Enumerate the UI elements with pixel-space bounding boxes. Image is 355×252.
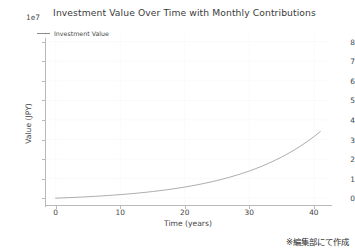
y-tick-mark — [42, 120, 45, 121]
y-tick-mark — [42, 61, 45, 62]
x-tick-mark — [120, 206, 121, 209]
y-tick-mark — [42, 140, 45, 141]
y-axis-exponent-label: 1e7 — [26, 13, 40, 22]
y-axis-spine — [45, 31, 46, 207]
y-tick-mark — [42, 100, 45, 101]
x-tick-mark — [56, 206, 57, 209]
legend-line-swatch — [37, 33, 50, 34]
y-tick-mark — [42, 179, 45, 180]
y-tick-mark — [42, 42, 45, 43]
plot-area — [46, 33, 330, 205]
x-tick-mark — [249, 206, 250, 209]
y-tick-label: 6 — [315, 76, 355, 85]
y-tick-label: 7 — [315, 57, 355, 66]
x-tick-label: 20 — [170, 208, 200, 217]
legend-label: Investment Value — [54, 30, 109, 37]
y-tick-label: 8 — [315, 37, 355, 46]
chart-title: Investment Value Over Time with Monthly … — [0, 7, 355, 18]
y-tick-label: 5 — [315, 96, 355, 105]
y-tick-mark — [42, 81, 45, 82]
y-tick-mark — [42, 159, 45, 160]
y-tick-label: 4 — [315, 115, 355, 124]
y-tick-label: 1 — [315, 174, 355, 183]
x-tick-mark — [314, 206, 315, 209]
y-tick-mark — [42, 198, 45, 199]
x-tick-mark — [185, 206, 186, 209]
y-axis-label: Value (JPY) — [24, 79, 33, 169]
x-tick-label: 0 — [41, 208, 71, 217]
chart-legend: Investment Value — [34, 29, 112, 38]
x-axis-spine — [45, 205, 332, 206]
investment-value-line — [46, 33, 330, 205]
x-tick-label: 40 — [299, 208, 329, 217]
x-axis-label: Time (years) — [46, 219, 330, 228]
y-tick-label: 0 — [315, 194, 355, 203]
y-tick-label: 3 — [315, 135, 355, 144]
x-tick-label: 30 — [234, 208, 264, 217]
x-tick-label: 10 — [105, 208, 135, 217]
credit-note: ※編集部にて作成 — [286, 235, 349, 247]
y-tick-label: 2 — [315, 155, 355, 164]
chart-figure: Investment Value Over Time with Monthly … — [0, 0, 355, 252]
